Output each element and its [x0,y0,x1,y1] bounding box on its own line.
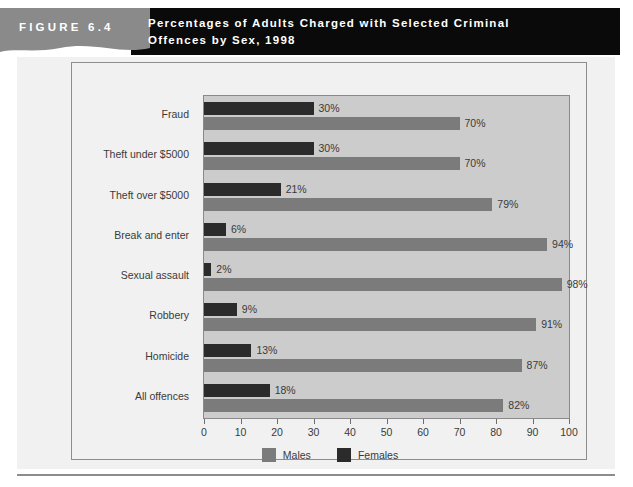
bar-value-label-males: 94% [552,238,573,251]
bar-value-label-males: 79% [497,198,518,211]
legend-swatch [262,448,276,462]
bar-group: 18%82% [204,384,569,412]
axis-tick-label: 60 [417,426,429,438]
bar-group: 9%91% [204,303,569,331]
bar-females [204,344,251,357]
axis-tick [350,419,351,424]
figure-title: Percentages of Adults Charged with Selec… [148,15,610,49]
bar-value-label-females: 18% [275,384,296,397]
bar-value-label-females: 2% [216,263,231,276]
bar-group: 2%98% [204,263,569,291]
bar-value-label-females: 13% [256,344,277,357]
bar-females [204,183,281,196]
bars-container: 30%70%30%70%21%79%6%94%2%98%9%91%13%87%1… [204,96,569,418]
bar-value-label-males: 70% [465,117,486,130]
legend-item: Females [337,448,398,462]
bar-group: 6%94% [204,223,569,251]
bar-females [204,102,314,115]
legend-label: Males [283,449,311,461]
bar-females [204,263,211,276]
bar-males [204,318,536,331]
bar-value-label-males: 82% [508,399,529,412]
axis-tick [204,419,205,424]
category-label: Robbery [149,309,189,321]
axis-tick [496,419,497,424]
category-label: Break and enter [114,229,189,241]
chart-panel-border: FraudTheft under $5000Theft over $5000Br… [71,62,587,460]
axis-tick [277,419,278,424]
bar-males [204,117,460,130]
axis-tick-label: 70 [454,426,466,438]
bar-value-label-females: 6% [231,223,246,236]
chart-legend: MalesFemales [72,448,588,462]
bar-group: 21%79% [204,183,569,211]
bar-value-label-males: 87% [527,359,548,372]
category-label: Theft over $5000 [110,189,189,201]
figure-panel: FraudTheft under $5000Theft over $5000Br… [17,57,615,469]
bar-males [204,399,503,412]
legend-label: Females [358,449,398,461]
category-label: Fraud [162,108,189,120]
category-label: Sexual assault [121,269,189,281]
axis-tick [533,419,534,424]
axis-tick-label: 40 [344,426,356,438]
axis-tick-label: 20 [271,426,283,438]
bar-value-label-females: 9% [242,303,257,316]
bar-value-label-males: 98% [567,278,588,291]
figure-bottom-rule [17,474,615,476]
figure-title-line-2: Offences by Sex, 1998 [148,32,610,49]
axis-tick [387,419,388,424]
bar-males [204,278,562,291]
category-axis-labels: FraudTheft under $5000Theft over $5000Br… [72,95,197,419]
category-label: Homicide [145,350,189,362]
legend-swatch [337,448,351,462]
bar-males [204,359,522,372]
axis-tick [460,419,461,424]
axis-tick [241,419,242,424]
bar-value-label-males: 91% [541,318,562,331]
x-axis-tick-labels: 0102030405060708090100 [203,426,570,442]
x-axis-ticks [203,419,570,425]
figure-header: FIGURE 6.4 Percentages of Adults Charged… [0,8,620,55]
legend-item: Males [262,448,311,462]
axis-tick-label: 90 [527,426,539,438]
axis-tick-label: 50 [381,426,393,438]
axis-tick-label: 10 [235,426,247,438]
bar-group: 30%70% [204,142,569,170]
bar-value-label-males: 70% [465,157,486,170]
figure-container: FIGURE 6.4 Percentages of Adults Charged… [0,0,633,487]
bar-females [204,223,226,236]
bar-males [204,238,547,251]
bar-females [204,384,270,397]
bar-females [204,303,237,316]
axis-tick-label: 80 [490,426,502,438]
figure-title-line-1: Percentages of Adults Charged with Selec… [148,15,610,32]
bar-group: 13%87% [204,344,569,372]
axis-tick [569,419,570,424]
category-label: All offences [135,390,189,402]
figure-number-label: FIGURE 6.4 [19,21,114,33]
bar-value-label-females: 30% [319,102,340,115]
bar-males [204,198,492,211]
axis-tick-label: 0 [201,426,207,438]
category-label: Theft under $5000 [103,148,189,160]
bar-females [204,142,314,155]
bar-males [204,157,460,170]
plot-area: 30%70%30%70%21%79%6%94%2%98%9%91%13%87%1… [203,95,570,419]
bar-group: 30%70% [204,102,569,130]
axis-tick [423,419,424,424]
axis-tick-label: 30 [308,426,320,438]
bar-value-label-females: 21% [286,183,307,196]
axis-tick [314,419,315,424]
axis-tick-label: 100 [560,426,578,438]
bar-value-label-females: 30% [319,142,340,155]
